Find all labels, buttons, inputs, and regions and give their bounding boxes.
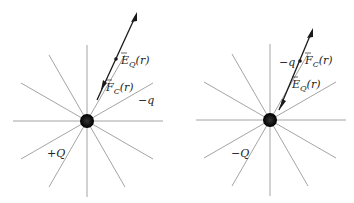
label-e-field-left: EQ(r): [120, 54, 149, 69]
label-force-left: FC(r): [105, 81, 134, 96]
test-charge-right: [298, 59, 302, 63]
source-charge-negative: [263, 113, 277, 127]
electric-field-diagram: EQ(r) FC(r) −q +Q −q FC(r) EQ(r): [0, 0, 354, 203]
label-test-charge-left: −q: [138, 94, 154, 107]
source-charge-positive: [80, 114, 94, 128]
arrowhead-e-field-left: [131, 12, 137, 22]
left-panel: EQ(r) FC(r) −q +Q: [13, 12, 163, 197]
test-charge-left: [114, 57, 118, 61]
label-e-field-right: EQ(r): [291, 78, 320, 93]
arrowhead-force-right: [307, 28, 313, 38]
label-force-right: FC(r): [304, 54, 333, 69]
right-panel: −q FC(r) EQ(r) −Q: [196, 28, 346, 196]
label-source-charge-left: +Q: [47, 147, 65, 160]
label-source-charge-right: −Q: [231, 147, 249, 160]
label-test-charge-right: −q: [279, 56, 295, 69]
